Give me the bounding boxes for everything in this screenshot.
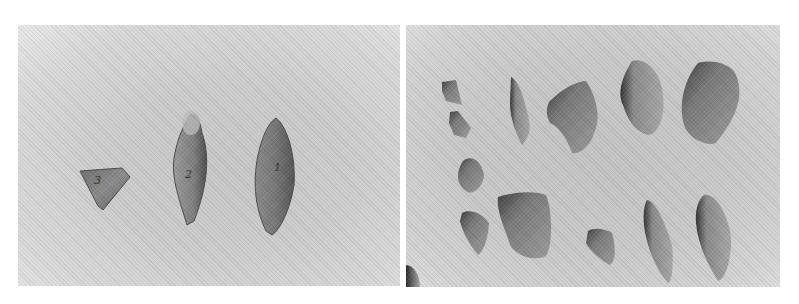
- photo-panel-right: [406, 25, 780, 287]
- film-grain: [406, 25, 780, 287]
- photo-panel-left: 3 2 1: [18, 25, 400, 286]
- film-grain: [18, 25, 400, 286]
